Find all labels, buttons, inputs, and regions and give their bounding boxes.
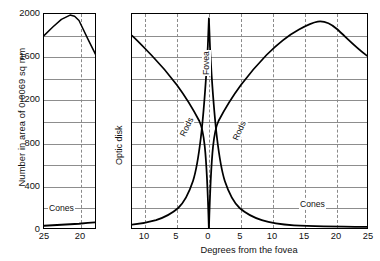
x-tick-main-10-nasal: 10 [139,231,149,241]
y-tick-2000: 2000 [19,8,40,18]
cones-label-main-panel: Cones [299,200,326,209]
y-tick-1200: 1200 [19,94,40,104]
optic-disk-label: Optic disk [114,125,124,165]
y-tick-400: 400 [24,181,40,191]
rods-curve-left-panel [44,15,96,57]
y-axis-tick-labels: 2000 1600 1200 800 400 0 [0,0,40,261]
x-tick-main-25: 25 [363,231,373,241]
retina-receptor-density-figure: Number in area of 0.0069 sq mm 2000 1600… [0,0,380,261]
left-panel-curves [44,14,96,229]
x-tick-main-5-nasal: 5 [173,231,178,241]
y-tick-800: 800 [24,138,40,148]
x-tick-left-25: 25 [39,231,49,241]
cones-label-left-panel: Cones [48,204,75,213]
x-tick-main-5: 5 [237,231,242,241]
main-panel-plot-area: Fovea Rods Rods Cones [131,13,368,229]
cones-curve-left-panel [44,222,96,226]
left-panel-plot-area: Cones [43,13,96,229]
x-axis-title: Degrees from the fovea [200,245,297,255]
x-tick-left-20: 20 [75,231,85,241]
y-tick-1600: 1600 [19,51,40,61]
fovea-label: Fovea [202,50,211,76]
x-tick-main-10: 10 [267,231,277,241]
x-tick-main-20: 20 [331,231,341,241]
cones-curve-main-panel [132,18,368,227]
rods-curve-main-panel [132,21,368,229]
main-panel-curves [132,14,368,229]
x-tick-main-15: 15 [299,231,309,241]
x-tick-main-0: 0 [205,231,210,241]
